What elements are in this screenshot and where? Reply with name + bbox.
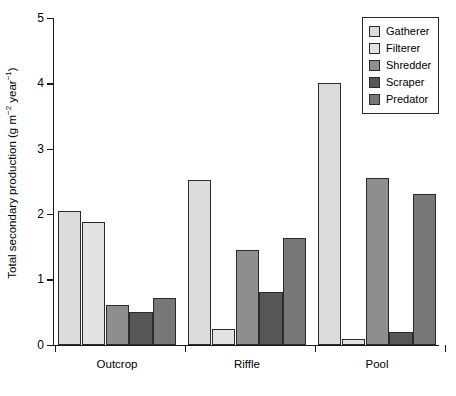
- bar-outcrop-shredder: [106, 305, 129, 344]
- bar-riffle-filterer: [212, 329, 235, 345]
- y-axis-line: [53, 18, 54, 346]
- y-tick-label: 5: [37, 10, 44, 26]
- y-axis-title-text-middle: year: [6, 80, 18, 106]
- x-tick-mark: [445, 345, 446, 352]
- bar-pool-gatherer: [318, 83, 341, 345]
- x-tick-mark: [315, 345, 316, 352]
- legend-swatch-icon: [369, 94, 380, 105]
- y-tick-mark: [47, 214, 53, 215]
- bar-riffle-gatherer: [188, 180, 211, 345]
- y-axis-title: Total secondary production (g m−2 year−1…: [0, 0, 18, 346]
- bar-outcrop-predator: [153, 298, 176, 345]
- x-axis-line: [53, 345, 439, 346]
- bar-riffle-scraper: [259, 292, 282, 345]
- bar-chart-figure: Total secondary production (g m−2 year−1…: [0, 0, 456, 396]
- y-axis-title-sup-1: −2: [4, 106, 13, 115]
- legend-item-shredder[interactable]: Shredder: [369, 57, 431, 74]
- legend-item-gatherer[interactable]: Gatherer: [369, 23, 431, 40]
- bar-pool-shredder: [366, 178, 389, 345]
- bar-pool-predator: [413, 194, 436, 344]
- x-group-label-pool: Pool: [365, 358, 388, 370]
- legend-item-label: Filterer: [386, 43, 420, 54]
- bar-pool-scraper: [389, 332, 412, 345]
- x-group-label-riffle: Riffle: [234, 358, 260, 370]
- y-tick-label: 2: [37, 206, 44, 222]
- bar-riffle-shredder: [236, 250, 259, 345]
- legend-item-label: Gatherer: [386, 26, 429, 37]
- x-tick-mark: [185, 345, 186, 352]
- y-tick-mark: [47, 149, 53, 150]
- bar-outcrop-scraper: [129, 312, 152, 345]
- y-tick-mark: [47, 18, 53, 19]
- y-axis-title-sup-2: −1: [4, 71, 13, 80]
- legend-swatch-icon: [369, 26, 380, 37]
- legend-item-label: Scraper: [386, 77, 425, 88]
- legend-item-label: Predator: [386, 94, 428, 105]
- x-tick-mark: [55, 345, 56, 352]
- legend-item-scraper[interactable]: Scraper: [369, 74, 431, 91]
- y-axis-title-text-after: ): [6, 67, 18, 71]
- y-tick-label: 3: [37, 141, 44, 157]
- legend-swatch-icon: [369, 43, 380, 54]
- y-axis-title-text-before: Total secondary production (g m: [6, 115, 18, 279]
- legend: GathererFiltererShredderScraperPredator: [362, 17, 439, 114]
- y-tick-label: 1: [37, 271, 44, 287]
- legend-item-predator[interactable]: Predator: [369, 91, 431, 108]
- legend-swatch-icon: [369, 77, 380, 88]
- bar-pool-filterer: [342, 339, 365, 344]
- y-tick-mark: [47, 83, 53, 84]
- y-tick-label: 0: [37, 337, 44, 353]
- legend-swatch-icon: [369, 60, 380, 71]
- x-group-label-outcrop: Outcrop: [97, 358, 138, 370]
- y-tick-mark: [47, 279, 53, 280]
- bar-outcrop-filterer: [82, 222, 105, 344]
- bar-riffle-predator: [283, 238, 306, 345]
- y-tick-mark: [47, 345, 53, 346]
- y-tick-label: 4: [37, 75, 44, 91]
- legend-item-label: Shredder: [386, 60, 431, 71]
- legend-item-filterer[interactable]: Filterer: [369, 40, 431, 57]
- bar-outcrop-gatherer: [58, 211, 81, 344]
